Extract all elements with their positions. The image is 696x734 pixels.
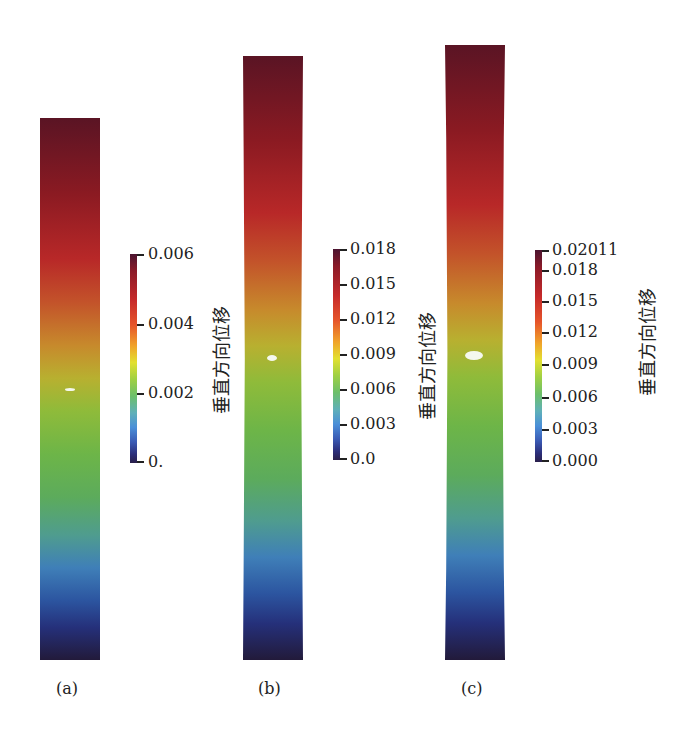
- tick-mark: [542, 364, 549, 366]
- tick-mark: [340, 389, 347, 391]
- tick-mark: [137, 254, 144, 256]
- colorbar-label-b: 垂直方向位移: [418, 312, 438, 420]
- tick-mark: [340, 354, 347, 356]
- tick-label: 0.004: [148, 316, 194, 332]
- specimen-c: [445, 45, 505, 660]
- specimen-b: [243, 56, 303, 660]
- tick-mark: [542, 270, 549, 272]
- tick-mark: [542, 301, 549, 303]
- colorbar-label-c: 垂直方向位移: [638, 288, 658, 396]
- tick-label: 0.018: [350, 241, 396, 257]
- colorbar-a: [130, 254, 137, 463]
- tick-label: 0.018: [552, 262, 598, 278]
- tick-label: 0.006: [148, 246, 194, 262]
- tick-label: 0.003: [350, 416, 396, 432]
- hole-b: [267, 355, 277, 361]
- colorbar-c: [535, 250, 542, 462]
- tick-mark: [340, 458, 347, 460]
- colorbar-label-a: 垂直方向位移: [212, 306, 232, 414]
- tick-mark: [542, 250, 549, 252]
- tick-mark: [542, 429, 549, 431]
- tick-label: 0.006: [350, 381, 396, 397]
- caption-c: (c): [461, 680, 482, 698]
- tick-label: 0.015: [552, 293, 598, 309]
- tick-mark: [137, 461, 144, 463]
- tick-label: 0.012: [350, 311, 396, 327]
- caption-b: (b): [258, 680, 281, 698]
- tick-label: 0.006: [552, 389, 598, 405]
- tick-mark: [137, 324, 144, 326]
- tick-label: 0.0: [350, 451, 375, 467]
- caption-a: (a): [56, 680, 78, 698]
- tick-label: 0.000: [552, 453, 598, 469]
- tick-label: 0.02011: [552, 242, 618, 258]
- tick-mark: [137, 393, 144, 395]
- colorbar-b: [333, 249, 340, 460]
- tick-mark: [542, 397, 549, 399]
- tick-label: 0.002: [148, 385, 194, 401]
- tick-mark: [542, 332, 549, 334]
- tick-label: 0.009: [350, 346, 396, 362]
- hole-c: [465, 351, 483, 360]
- tick-label: 0.003: [552, 421, 598, 437]
- tick-mark: [340, 424, 347, 426]
- tick-label: 0.012: [552, 324, 598, 340]
- specimen-a: [40, 118, 100, 660]
- tick-label: 0.015: [350, 276, 396, 292]
- tick-label: 0.009: [552, 356, 598, 372]
- tick-label: 0.: [148, 454, 163, 470]
- tick-mark: [340, 284, 347, 286]
- tick-mark: [340, 319, 347, 321]
- tick-mark: [542, 460, 549, 462]
- tick-mark: [340, 249, 347, 251]
- hole-a: [65, 388, 75, 391]
